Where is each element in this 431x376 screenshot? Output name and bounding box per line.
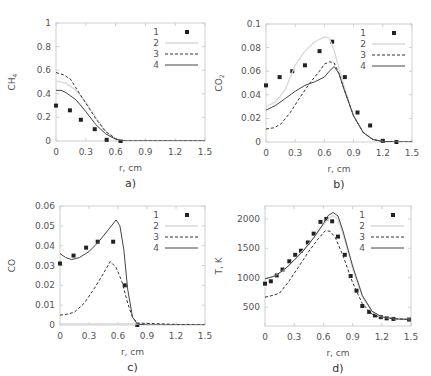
x-tick-label: 1.2 — [375, 332, 389, 342]
series-line-4 — [56, 90, 205, 141]
legend-label: 4 — [153, 243, 159, 253]
y-tick-label: 0.06 — [241, 66, 261, 76]
data-point-series-1 — [84, 246, 88, 250]
legend-label: 3 — [360, 50, 366, 60]
data-point-series-1 — [330, 219, 334, 223]
y-tick-label: 0.05 — [35, 221, 55, 231]
y-axis-label: CH4 — [7, 73, 18, 90]
x-tick-label: 1.5 — [405, 148, 419, 158]
y-tick-label: 0.03 — [35, 261, 55, 271]
figure-canvas: 00.30.60.91.21.500.20.40.60.81r, cmCH4a)… — [0, 0, 431, 376]
panel-caption: b) — [333, 178, 344, 191]
plot-frame — [265, 206, 411, 326]
x-tick-label: 0.9 — [346, 148, 361, 158]
y-tick-label: 0.02 — [241, 113, 261, 123]
data-point-series-1 — [343, 75, 347, 79]
legend-label: 4 — [153, 60, 159, 70]
y-tick-label: 1 — [45, 18, 51, 28]
legend-marker-icon — [392, 31, 396, 35]
x-tick-label: 0.3 — [288, 148, 302, 158]
x-tick-label: 1.2 — [169, 331, 183, 341]
data-point-series-1 — [360, 304, 364, 308]
x-tick-label: 0.6 — [317, 148, 332, 158]
x-tick-label: 1.5 — [404, 332, 418, 342]
data-point-series-1 — [303, 63, 307, 67]
data-point-series-1 — [79, 118, 83, 122]
data-point-series-1 — [111, 240, 115, 244]
data-point-series-1 — [72, 254, 76, 258]
legend-label: 1 — [360, 28, 366, 38]
data-point-series-1 — [368, 123, 372, 127]
y-axis-label-main: CO — [214, 78, 224, 91]
y-tick-label: 0.6 — [37, 65, 52, 75]
series-line-3 — [56, 73, 205, 141]
y-tick-label: 0.2 — [37, 112, 51, 122]
x-tick-label: 1.2 — [376, 148, 390, 158]
chart-panel-b: 00.30.60.91.21.500.020.040.060.080.1r, c… — [214, 19, 419, 191]
x-tick-label: 0 — [263, 148, 269, 158]
legend-label: 1 — [153, 27, 159, 37]
y-axis-label-main: T, K — [214, 256, 224, 275]
legend-label: 4 — [359, 243, 365, 253]
y-tick-label: 1500 — [237, 243, 260, 253]
legend-label: 2 — [359, 221, 365, 231]
data-point-series-1 — [355, 111, 359, 115]
x-tick-label: 1.5 — [198, 331, 212, 341]
y-tick-label: 0.8 — [37, 42, 52, 52]
chart-panel-d: 00.30.60.91.21.5500100015002000r, cmT, K… — [214, 206, 418, 375]
x-axis-label: r, cm — [326, 348, 349, 358]
legend-label: 2 — [360, 39, 366, 49]
data-point-series-1 — [263, 282, 267, 286]
legend-label: 3 — [359, 232, 365, 242]
series-line-3 — [265, 231, 411, 320]
chart-panel-a: 00.30.60.91.21.500.20.40.60.81r, cmCH4a)… — [7, 18, 212, 190]
y-axis-label-subscript: 2 — [218, 74, 225, 78]
legend: 1234 — [153, 27, 198, 70]
legend-label: 3 — [153, 49, 159, 59]
y-tick-label: 0.4 — [37, 89, 52, 99]
legend: 1234 — [360, 28, 405, 71]
y-axis-label: T, K — [214, 256, 224, 275]
y-tick-label: 0.01 — [35, 300, 55, 310]
legend-label: 1 — [359, 210, 365, 220]
y-tick-label: 0.06 — [35, 201, 55, 211]
y-tick-label: 0.02 — [35, 280, 55, 290]
series-line-4 — [265, 213, 411, 320]
data-point-series-1 — [54, 104, 58, 108]
data-point-series-1 — [318, 220, 322, 224]
x-tick-label: 1.2 — [168, 147, 182, 157]
legend-marker-icon — [391, 213, 395, 217]
panel-caption: d) — [332, 362, 343, 375]
legend-label: 4 — [360, 61, 366, 71]
data-point-series-1 — [105, 138, 109, 142]
data-point-series-1 — [264, 83, 268, 87]
x-tick-label: 0.3 — [287, 332, 301, 342]
plot-frame — [60, 206, 205, 325]
y-tick-label: 500 — [243, 302, 260, 312]
x-tick-label: 1.5 — [198, 147, 212, 157]
legend-label: 2 — [153, 38, 159, 48]
x-axis-label: r, cm — [121, 347, 144, 357]
legend-marker-icon — [185, 213, 189, 217]
y-tick-label: 0.04 — [241, 90, 261, 100]
x-tick-label: 0.9 — [345, 332, 360, 342]
x-tick-label: 0.6 — [108, 147, 123, 157]
y-axis-label-main: CO — [7, 259, 17, 272]
legend-label: 1 — [153, 210, 159, 220]
y-tick-label: 1000 — [237, 273, 260, 283]
series-line-4 — [266, 67, 412, 143]
data-point-series-1 — [93, 127, 97, 131]
series-line-2 — [266, 37, 412, 142]
data-point-series-1 — [58, 262, 62, 266]
x-axis-label: r, cm — [119, 163, 142, 173]
y-axis-label-main: CH — [7, 77, 17, 90]
x-tick-label: 0 — [57, 331, 63, 341]
legend-label: 3 — [153, 232, 159, 242]
y-axis-label: CO2 — [214, 74, 225, 91]
x-tick-label: 0.3 — [79, 147, 93, 157]
x-tick-label: 0.3 — [82, 331, 96, 341]
data-point-series-1 — [336, 235, 340, 239]
series-line-2 — [56, 81, 205, 141]
data-point-series-1 — [278, 75, 282, 79]
y-axis-label-subscript: 4 — [11, 73, 18, 77]
